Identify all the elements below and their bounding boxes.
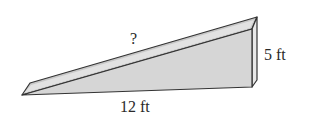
ramp-figure	[0, 0, 310, 130]
base-label: 12 ft	[120, 99, 150, 115]
hypotenuse-label: ?	[130, 31, 137, 47]
ramp-diagram: ? 5 ft 12 ft	[0, 0, 310, 130]
height-label: 5 ft	[264, 47, 286, 63]
ramp-side-face	[252, 17, 257, 87]
